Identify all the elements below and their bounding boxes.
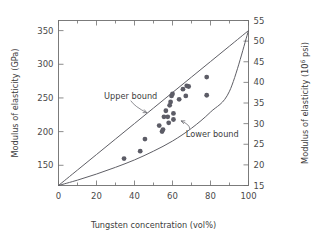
data-point: [204, 93, 209, 98]
y-right-tick-label: 40: [254, 77, 265, 87]
data-point: [181, 87, 186, 92]
y-right-tick-label: 15: [254, 181, 265, 191]
x-tick-label: 0: [56, 191, 61, 201]
data-point: [170, 92, 175, 97]
data-point: [171, 111, 176, 116]
data-point: [204, 75, 209, 80]
y-left-tick-label: 200: [37, 127, 53, 137]
data-point: [165, 114, 170, 119]
y-axis-right-tick-labels: 152025303540455055: [254, 16, 265, 191]
y-left-tick-label: 300: [37, 59, 53, 69]
chart-background: [0, 0, 324, 242]
data-point: [157, 123, 162, 128]
x-tick-label: 100: [240, 191, 256, 201]
y-axis-right-title-tail: psi): [300, 42, 310, 60]
data-point: [183, 94, 188, 99]
chart-figure: 020406080100 150200250300350 15202530354…: [0, 0, 324, 242]
data-point: [166, 120, 171, 125]
data-point: [168, 100, 173, 105]
x-tick-label: 80: [205, 191, 216, 201]
y-right-tick-label: 20: [254, 160, 265, 170]
y-right-tick-label: 50: [254, 36, 265, 46]
y-axis-right-title: Modulus of elasticity (106 psi): [299, 42, 310, 164]
data-point: [161, 127, 166, 132]
data-point: [122, 156, 127, 161]
y-left-tick-label: 350: [37, 26, 53, 36]
y-right-tick-label: 30: [254, 119, 265, 129]
upper-bound-label: Upper bound: [104, 91, 157, 101]
y-left-tick-label: 150: [37, 160, 53, 170]
data-point: [186, 84, 191, 89]
x-tick-label: 40: [129, 191, 140, 201]
y-right-tick-label: 55: [254, 16, 265, 26]
y-left-tick-label: 250: [37, 93, 53, 103]
y-right-tick-label: 25: [254, 139, 265, 149]
y-axis-left-title: Modulus of elasticity (GPa): [10, 48, 20, 157]
data-point: [138, 149, 143, 154]
data-point: [143, 137, 148, 142]
elasticity-vs-tungsten-scatter-chart: 020406080100 150200250300350 15202530354…: [0, 0, 324, 242]
data-point: [163, 108, 168, 113]
y-right-tick-label: 45: [254, 57, 265, 67]
x-tick-label: 20: [91, 191, 102, 201]
y-right-tick-label: 35: [254, 98, 265, 108]
lower-bound-label: Lower bound: [186, 129, 239, 139]
data-point: [171, 117, 176, 122]
data-point: [177, 97, 182, 102]
x-axis-title: Tungsten concentration (vol%): [90, 220, 216, 230]
x-tick-label: 60: [167, 191, 178, 201]
y-axis-right-title-base: Modulus of elasticity (10: [300, 63, 310, 163]
